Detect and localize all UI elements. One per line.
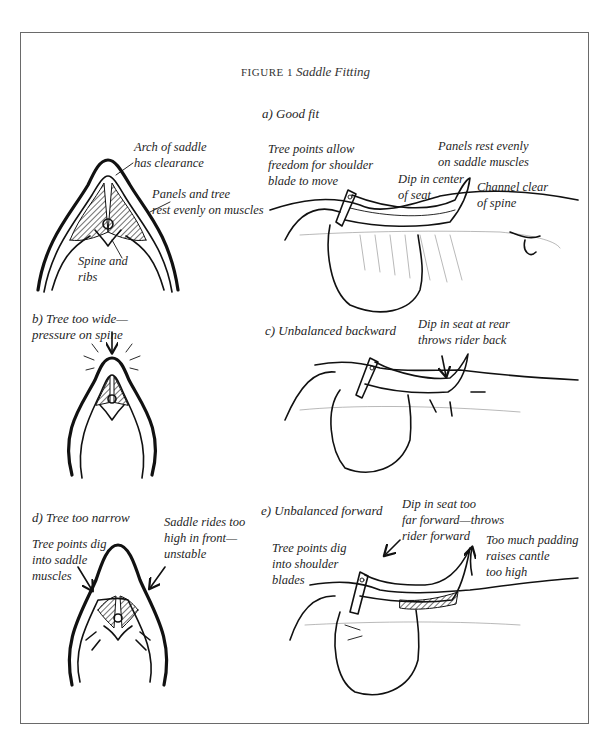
panel-d-label: d) Tree too narrow xyxy=(32,510,130,526)
callout-dip-at-rear: Dip in seat at rear throws rider back xyxy=(418,316,510,348)
side-view-unbalanced-backward xyxy=(285,354,578,472)
callout-panels-and-tree: Panels and tree rest evenly on muscles xyxy=(152,186,264,218)
callout-tree-points-dig-muscles: Tree points dig into saddle muscles xyxy=(32,536,107,584)
front-view-tree-too-wide xyxy=(69,332,156,478)
callout-too-much-padding: Too much padding raises cantle too high xyxy=(486,532,579,580)
callout-arch: Arch of saddle has clearance xyxy=(134,139,206,171)
panel-e-label: e) Unbalanced forward xyxy=(261,503,383,519)
callout-dip-in-center: Dip in center of seat xyxy=(398,171,464,203)
panel-b-label: b) Tree too wide— pressure on spine xyxy=(32,311,128,343)
panel-a-label: a) Good fit xyxy=(262,106,319,122)
callout-spine-and-ribs: Spine and ribs xyxy=(78,253,128,285)
callout-channel-clear: Channel clear of spine xyxy=(477,179,548,211)
callout-tree-points-allow: Tree points allow freedom for shoulder b… xyxy=(268,141,373,189)
panel-c-label: c) Unbalanced backward xyxy=(265,323,396,339)
callout-tree-points-shoulder: Tree points dig into shoulder blades xyxy=(272,540,347,588)
callout-rides-too-high: Saddle rides too high in front— unstable xyxy=(164,514,245,562)
callout-panels-rest-evenly: Panels rest evenly on saddle muscles xyxy=(438,138,529,170)
